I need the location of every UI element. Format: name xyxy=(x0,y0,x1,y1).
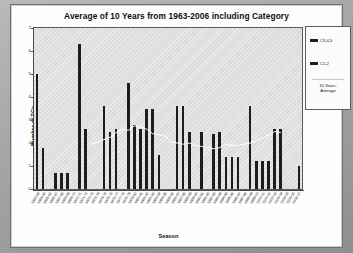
window-background: Average of 10 Years from 1963-2006 inclu… xyxy=(0,0,353,253)
average-line xyxy=(92,126,281,149)
x-axis-title: Season xyxy=(11,233,326,239)
y-axis-tick-mark xyxy=(31,189,33,190)
legend-item-label: C3,4,5 xyxy=(320,38,332,43)
y-axis-tick-mark xyxy=(31,97,33,98)
legend-swatch-icon xyxy=(310,62,318,65)
plot-area xyxy=(33,27,303,190)
average-line-layer xyxy=(34,28,302,189)
y-axis-tick-mark xyxy=(31,28,33,29)
y-axis-tick-mark xyxy=(31,120,33,121)
legend-item-c12: C1,2 xyxy=(310,61,329,66)
legend-item-label: C1,2 xyxy=(320,61,329,66)
y-axis-tick-mark xyxy=(31,166,33,167)
chart-container: Average of 10 Years from 1963-2006 inclu… xyxy=(10,4,343,248)
chart-legend: C3,4,5 C1,2 10 Years-Average xyxy=(305,26,351,110)
legend-item-c345: C3,4,5 xyxy=(310,38,332,43)
legend-swatch-icon xyxy=(310,39,318,42)
chart-title: Average of 10 Years from 1963-2006 inclu… xyxy=(11,11,342,21)
y-axis-line xyxy=(33,27,34,191)
legend-average-line: Average xyxy=(306,88,350,93)
y-axis-tick-mark xyxy=(31,143,33,144)
y-axis-tick-mark xyxy=(31,51,33,52)
legend-divider xyxy=(312,79,344,80)
y-axis-tick-mark xyxy=(31,74,33,75)
x-axis-tick-labels: 1963-641964-651965-661966-671967-681968-… xyxy=(33,192,303,236)
legend-average-label: 10 Years-Average xyxy=(306,83,350,94)
